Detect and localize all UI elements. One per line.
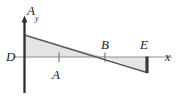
- x-axis-label: x: [165, 51, 170, 63]
- shear-diagram-figure: Ay D A B E x: [0, 0, 179, 97]
- point-label-b: B: [101, 38, 109, 51]
- origin-label-d: D: [6, 50, 15, 63]
- point-label-e: E: [140, 38, 148, 51]
- point-label-a: A: [52, 68, 60, 81]
- y-axis-label: Ay: [27, 4, 39, 21]
